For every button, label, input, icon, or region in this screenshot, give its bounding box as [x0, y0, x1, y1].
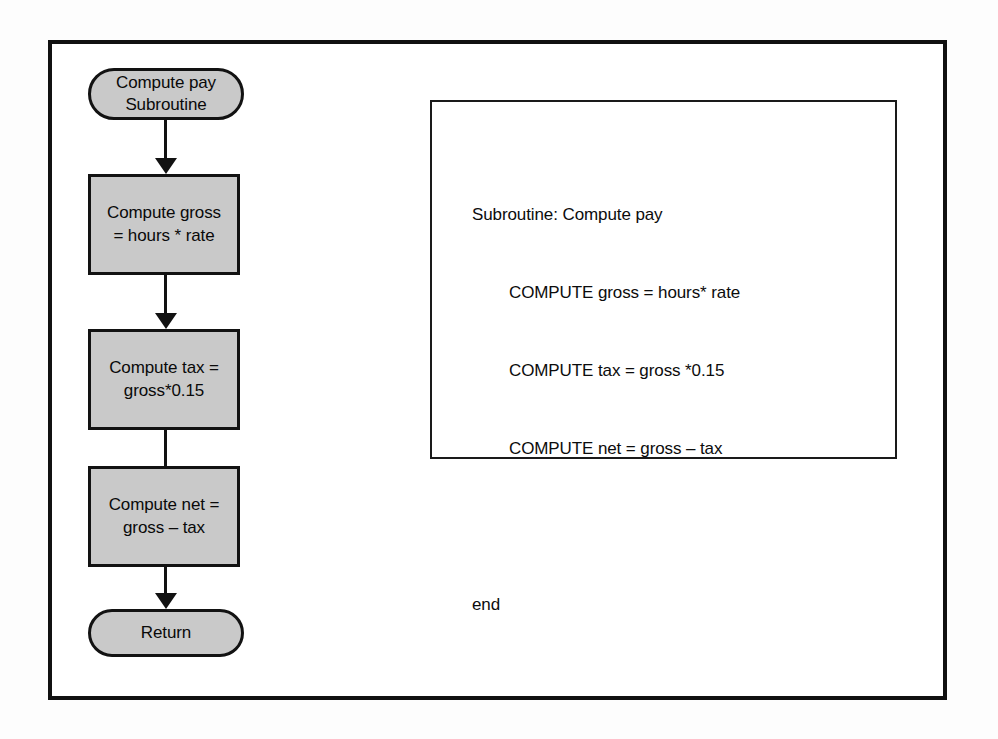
- pseudocode-panel: Subroutine: Compute pay COMPUTE gross = …: [430, 100, 897, 459]
- flowchart-node-compute-tax[interactable]: Compute tax = gross*0.15: [88, 329, 240, 430]
- flowchart-connector-arrow-4: [155, 567, 177, 609]
- flowchart-node-label: Return: [135, 622, 197, 644]
- pseudocode-line: COMPUTE tax = gross *0.15: [472, 358, 740, 384]
- pseudocode-line: COMPUTE net = gross – tax: [472, 436, 740, 462]
- pseudocode-line-blank: [472, 514, 740, 540]
- flowchart-column: Compute pay Subroutine Compute gross = h…: [52, 44, 412, 704]
- flowchart-node-return-terminator[interactable]: Return: [88, 609, 244, 657]
- flowchart-node-label: Compute net = gross – tax: [103, 494, 226, 539]
- flowchart-node-label: Compute tax = gross*0.15: [103, 357, 225, 402]
- pseudocode-line: Subroutine: Compute pay: [472, 202, 740, 228]
- flowchart-node-start-terminator[interactable]: Compute pay Subroutine: [88, 68, 244, 120]
- diagram-outer-frame: Compute pay Subroutine Compute gross = h…: [48, 40, 947, 700]
- diagram-page: Compute pay Subroutine Compute gross = h…: [0, 0, 998, 739]
- flowchart-connector-arrow-2: [155, 275, 177, 329]
- flowchart-node-label: Compute pay Subroutine: [110, 72, 222, 117]
- flowchart-node-compute-gross[interactable]: Compute gross = hours * rate: [88, 174, 240, 275]
- flowchart-connector-arrow-1: [155, 120, 177, 174]
- flowchart-node-label: Compute gross = hours * rate: [101, 202, 227, 247]
- flowchart-node-compute-net[interactable]: Compute net = gross – tax: [88, 466, 240, 567]
- pseudocode-line: COMPUTE gross = hours* rate: [472, 280, 740, 306]
- pseudocode-block: Subroutine: Compute pay COMPUTE gross = …: [472, 150, 740, 670]
- pseudocode-line: end: [472, 592, 740, 618]
